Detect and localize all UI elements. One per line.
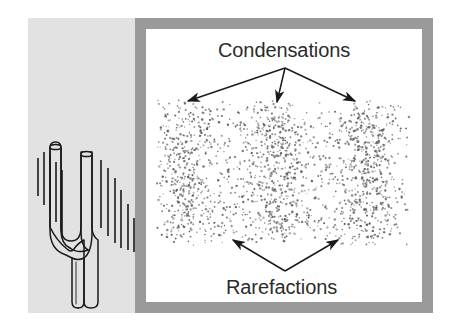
annotation-arrow [277, 68, 285, 102]
annotation-arrow [233, 240, 285, 271]
vibration-lines-right [101, 160, 134, 252]
label-rarefactions: Rarefactions [226, 277, 337, 297]
annotation-arrow [285, 68, 355, 101]
annotation-arrows [146, 29, 422, 302]
condensation-arrows [188, 68, 355, 102]
rarefaction-arrows [233, 240, 338, 271]
label-condensations: Condensations [218, 40, 350, 60]
tuning-fork-graphic [28, 18, 142, 313]
physics-figure-sound-wave: Condensations Rarefactions [0, 0, 453, 335]
tuning-fork-panel [28, 18, 142, 313]
tuning-fork-body [50, 142, 98, 308]
annotation-arrow [285, 240, 338, 271]
annotation-arrow [188, 68, 285, 101]
picture-frame [135, 18, 433, 313]
frame-inner-canvas [146, 29, 422, 302]
